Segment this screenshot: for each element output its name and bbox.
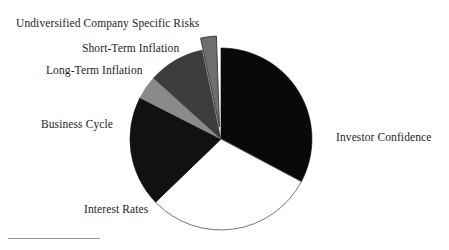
pie-label-long-term-inflation: Long-Term Inflation — [46, 64, 143, 77]
pie-label-undiversified-company-specific-risks: Undiversified Company Specific Risks — [16, 17, 199, 30]
pie-label-interest-rates: Interest Rates — [84, 203, 148, 216]
pie-label-business-cycle: Business Cycle — [41, 118, 113, 131]
footer-rule — [8, 238, 100, 239]
pie-label-short-term-inflation: Short-Term Inflation — [82, 42, 179, 55]
pie-chart-figure: Undiversified Company Specific Risks Sho… — [0, 0, 449, 250]
pie-label-investor-confidence: Investor Confidence — [336, 131, 431, 144]
